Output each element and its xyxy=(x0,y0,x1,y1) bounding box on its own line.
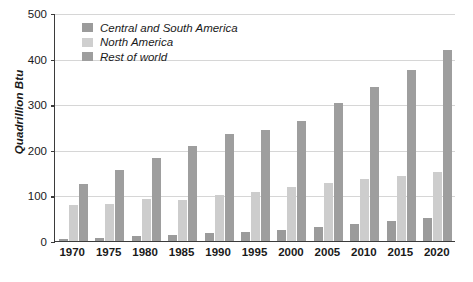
bar xyxy=(205,233,214,241)
bar xyxy=(324,183,333,241)
y-axis-tick-label: 300 xyxy=(7,99,47,111)
bar xyxy=(152,158,161,241)
bar xyxy=(188,146,197,241)
bar xyxy=(132,236,141,241)
bar xyxy=(297,121,306,241)
bar xyxy=(443,50,452,241)
bar xyxy=(350,224,359,241)
bar xyxy=(277,230,286,241)
bar xyxy=(69,205,78,241)
legend-item: Rest of world xyxy=(82,50,238,64)
bar xyxy=(397,176,406,241)
bar xyxy=(168,235,177,241)
bar-group xyxy=(347,14,383,241)
bar xyxy=(115,170,124,241)
legend-swatch-icon xyxy=(82,52,93,61)
bar xyxy=(142,199,151,241)
bar xyxy=(178,200,187,241)
legend-label: Rest of world xyxy=(100,51,167,63)
bar xyxy=(215,195,224,241)
y-axis-tick-label: 200 xyxy=(7,145,47,157)
bar xyxy=(334,103,343,241)
bar xyxy=(225,134,234,241)
bar xyxy=(79,184,88,241)
bar xyxy=(370,87,379,241)
bar-group xyxy=(274,14,310,241)
bar xyxy=(407,70,416,241)
y-axis-tick-mark xyxy=(51,242,55,243)
legend-label: North America xyxy=(100,36,173,48)
legend-swatch-icon xyxy=(82,38,93,47)
bar-group xyxy=(383,14,419,241)
bar xyxy=(360,179,369,241)
bar xyxy=(251,192,260,241)
bar-group xyxy=(310,14,346,241)
x-axis-tick-label: 2020 xyxy=(407,246,467,258)
legend-item: North America xyxy=(82,36,238,50)
energy-consumption-bar-chart: Quadrillion Btu 0100200300400500 1970197… xyxy=(0,0,473,282)
legend-label: Central and South America xyxy=(100,22,238,34)
legend-swatch-icon xyxy=(82,23,93,32)
bar xyxy=(287,187,296,241)
legend-item: Central and South America xyxy=(82,21,238,35)
y-axis-tick-label: 0 xyxy=(7,236,47,248)
bar xyxy=(423,218,432,241)
bar xyxy=(261,130,270,241)
bar-group xyxy=(420,14,456,241)
bar xyxy=(433,172,442,241)
bar xyxy=(241,232,250,241)
bar xyxy=(314,227,323,241)
bar xyxy=(387,221,396,241)
bar xyxy=(105,204,114,241)
legend: Central and South AmericaNorth AmericaRe… xyxy=(82,21,238,65)
bar-group xyxy=(237,14,273,241)
y-axis-tick-label: 400 xyxy=(7,54,47,66)
bar xyxy=(59,239,68,241)
y-axis-tick-label: 500 xyxy=(7,8,47,20)
y-axis-tick-label: 100 xyxy=(7,190,47,202)
bar xyxy=(95,238,104,241)
